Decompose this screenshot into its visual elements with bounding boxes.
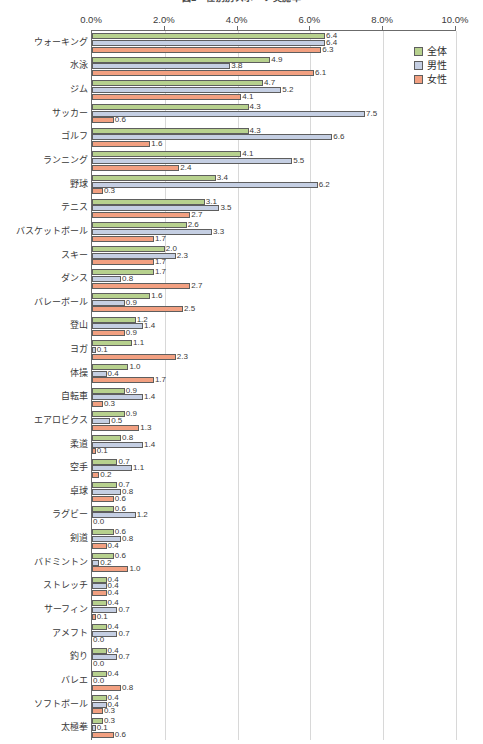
category-label: バレーボール [3, 297, 91, 308]
legend-label: 全体 [427, 46, 447, 58]
bar-value-label: 0.3 [103, 185, 115, 196]
bar-value-label: 6.6 [332, 131, 344, 142]
x-axis-tick-label: 0.0% [80, 14, 102, 25]
bar-value-label: 6.1 [314, 67, 326, 78]
bar [92, 560, 99, 566]
category-label: アメフト [3, 628, 91, 639]
bar [92, 33, 325, 39]
bar [92, 732, 114, 738]
bar [92, 394, 143, 400]
category-label: 野球 [3, 179, 91, 190]
category-label: バレエ [3, 675, 91, 686]
bar-value-label: 0.6 [114, 729, 126, 740]
bar [92, 418, 110, 424]
bar-group: 2.02.31.7 [92, 244, 456, 268]
bar-group: 4.37.50.6 [92, 102, 456, 126]
bar [92, 182, 318, 188]
bar-group: 0.70.80.6 [92, 480, 456, 504]
category-label: ジム [3, 84, 91, 95]
bar [92, 465, 132, 471]
bar [92, 141, 150, 147]
category-label: 卓球 [3, 486, 91, 497]
x-axis-tick-mark [164, 26, 165, 31]
bar [92, 40, 325, 46]
bar [92, 401, 103, 407]
bar [92, 151, 241, 157]
bar-group: 1.70.82.7 [92, 267, 456, 291]
bar [92, 229, 212, 235]
legend-swatch-icon [414, 47, 423, 56]
bar-value-label: 6.2 [318, 179, 330, 190]
bar [92, 583, 107, 589]
bar-value-label: 0.7 [117, 604, 129, 615]
x-axis-tick-mark [455, 26, 456, 31]
bar-value-label: 1.4 [143, 391, 155, 402]
bar-group: 4.15.52.4 [92, 149, 456, 173]
y-axis-category-labels: ウォーキング水泳ジムサッカーゴルフランニング野球テニスバスケットボールスキーダン… [0, 31, 91, 740]
bar [92, 685, 121, 691]
chart-title: 図2 性別別スポーツ実施率 [0, 0, 483, 4]
bar [92, 543, 107, 549]
category-label: 水泳 [3, 60, 91, 71]
bar [92, 47, 321, 53]
legend-item[interactable]: 男性 [414, 59, 476, 72]
bar [92, 317, 136, 323]
legend-item[interactable]: 全体 [414, 45, 476, 58]
bar [92, 63, 230, 69]
bar-value-label: 2.4 [179, 162, 191, 173]
x-axis-tick-mark [309, 26, 310, 31]
bar [92, 80, 263, 86]
bar-value-label: 0.8 [121, 682, 133, 693]
bar-group: 0.30.10.6 [92, 716, 456, 740]
bar [92, 306, 183, 312]
bar [92, 57, 270, 63]
chart-legend: 全体男性女性 [414, 45, 476, 87]
bar-value-label: 1.4 [143, 439, 155, 450]
bar-value-label: 0.6 [114, 550, 126, 561]
category-label: ラグビー [3, 509, 91, 520]
bar-group: 2.63.31.7 [92, 220, 456, 244]
category-label: バスケットボール [3, 226, 91, 237]
bar [92, 283, 190, 289]
bar [92, 472, 99, 478]
bar-group: 0.91.40.3 [92, 386, 456, 410]
bar [92, 330, 125, 336]
bar-group: 1.60.92.5 [92, 291, 456, 315]
bar-value-label: 0.3 [103, 398, 115, 409]
bar-value-label: 3.5 [219, 202, 231, 213]
bar [92, 459, 117, 465]
category-label: ダンス [3, 273, 91, 284]
bar [92, 158, 292, 164]
bar [92, 104, 249, 110]
legend-label: 男性 [427, 60, 447, 72]
bar-group: 0.60.80.4 [92, 527, 456, 551]
bar-group: 1.00.41.7 [92, 362, 456, 386]
bar-group: 0.40.70.1 [92, 598, 456, 622]
bar [92, 482, 117, 488]
bar [92, 300, 125, 306]
bar [92, 236, 154, 242]
bar [92, 529, 114, 535]
bar-value-label: 5.5 [292, 155, 304, 166]
bar [92, 128, 249, 134]
bar-value-label: 1.6 [150, 290, 162, 301]
bar-group: 0.40.70.0 [92, 645, 456, 669]
bar-value-label: 1.3 [139, 422, 151, 433]
bar-value-label: 2.3 [176, 250, 188, 261]
category-label: サッカー [3, 108, 91, 119]
bar-group: 0.60.21.0 [92, 551, 456, 575]
bar-group: 0.71.10.2 [92, 456, 456, 480]
legend-item[interactable]: 女性 [414, 73, 476, 86]
bar-value-label: 5.2 [281, 84, 293, 95]
bar [92, 577, 107, 583]
bar-value-label: 1.0 [128, 563, 140, 574]
x-axis-tick-mark [237, 26, 238, 31]
category-label: ストレッチ [3, 580, 91, 591]
bar [92, 371, 107, 377]
bar-value-label: 0.1 [96, 445, 108, 456]
bar-value-label: 0.0 [92, 658, 104, 669]
bar-value-label: 1.6 [150, 138, 162, 149]
bar-value-label: 0.0 [92, 516, 104, 527]
category-label: バドミントン [3, 557, 91, 568]
bar [92, 425, 139, 431]
